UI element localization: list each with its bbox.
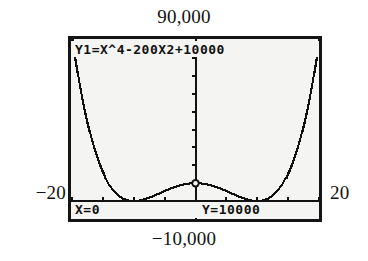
x-min-label: −20 xyxy=(14,182,66,204)
equation-tail: +10000 xyxy=(175,42,225,57)
calculator-screen[interactable]: Y1=X^4-200X2+10000 X=0 Y=10000 xyxy=(68,36,322,222)
calculator-figure: 90,000 −20 20 −10,000 Y1=X^4-200X2+10000… xyxy=(0,0,368,261)
trace-readout-backdrop xyxy=(72,202,322,218)
y-min-label: −10,000 xyxy=(0,228,368,250)
trace-y-readout: Y=10000 xyxy=(202,203,260,216)
equation-exponent: 2 xyxy=(167,42,175,57)
x-max-label: 20 xyxy=(330,182,366,204)
equation-head: Y1=X^4-200X xyxy=(75,42,167,57)
y-max-label: 90,000 xyxy=(0,6,368,28)
graph-plot-canvas[interactable] xyxy=(71,39,319,219)
equation-readout: Y1=X^4-200X2+10000 xyxy=(75,43,225,56)
trace-x-readout: X=0 xyxy=(75,203,100,216)
